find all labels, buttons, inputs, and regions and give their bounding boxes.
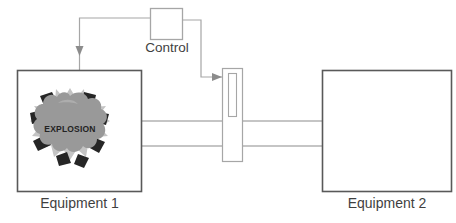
- equipment1-label: Equipment 1: [17, 196, 142, 210]
- valve-stem-slot: [229, 74, 237, 117]
- control-box[interactable]: [151, 9, 183, 40]
- arrowhead-down-equipment1: [76, 46, 84, 56]
- valve-group[interactable]: [223, 69, 243, 162]
- diagram-svg: [0, 0, 456, 223]
- arrowhead-right-valve: [212, 73, 222, 81]
- control-label: Control: [140, 41, 194, 55]
- equipment2-box[interactable]: [323, 71, 452, 192]
- diagram-canvas: EXPLOSION Equipment 1 Equipment 2 Contro…: [0, 0, 456, 223]
- connector-equipment1-control: [76, 18, 151, 70]
- equipment2-label: Equipment 2: [322, 196, 452, 210]
